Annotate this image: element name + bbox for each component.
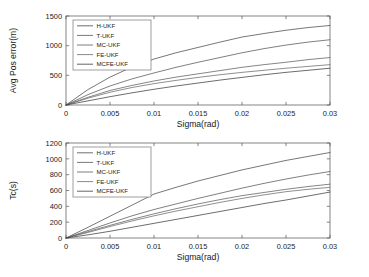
x-tick-label: 0.015 [189,109,208,118]
x-tick-label: 0 [64,109,68,118]
x-tick-label: 0.02 [235,109,249,118]
chart-panel-bottom: 00.0050.010.0150.020.0250.03020040060080… [0,137,369,277]
legend-label-h-ukf: H-UKF [97,149,116,156]
y-tick-label: 1000 [46,41,62,50]
x-tick-label: 0.01 [147,242,161,251]
x-tick-label: 0.03 [323,242,337,251]
y-tick-label: 1200 [46,139,62,148]
y-tick-label: 400 [50,202,62,211]
legend-label-fe-ukf: FE-UKF [97,51,119,58]
legend-label-t-ukf: T-UKF [97,32,115,39]
y-tick-label: 600 [50,186,62,195]
y-tick-label: 1000 [46,155,62,164]
series-line-fe-ukf [66,65,330,105]
bottom-chart-svg: 00.0050.010.0150.020.0250.03020040060080… [0,137,369,277]
y-tick-label: 200 [50,218,62,227]
y-tick-label: 0 [58,234,62,243]
legend-label-mc-ukf: MC-UKF [97,168,121,175]
y-tick-label: 1500 [46,12,62,21]
x-tick-label: 0.025 [277,242,296,251]
y-tick-label: 500 [50,71,62,80]
x-tick-label: 0.015 [189,242,208,251]
x-axis-title: Sigma(rad) [177,119,220,129]
x-tick-label: 0.02 [235,242,249,251]
y-axis-title: Tc(s) [8,181,18,200]
y-axis-title: Avg Pos error(m) [8,28,18,93]
y-tick-label: 800 [50,170,62,179]
x-tick-label: 0.005 [101,109,120,118]
x-tick-label: 0.03 [323,109,337,118]
x-tick-label: 0.01 [147,109,161,118]
legend-label-t-ukf: T-UKF [97,159,115,166]
x-axis-title: Sigma(rad) [177,252,220,262]
legend-label-mcfe-ukf: MCFE-UKF [97,60,129,67]
legend-label-mc-ukf: MC-UKF [97,41,121,48]
legend-label-fe-ukf: FE-UKF [97,178,119,185]
x-tick-label: 0 [64,242,68,251]
series-line-mcfe-ukf [66,192,330,238]
legend-label-h-ukf: H-UKF [97,22,116,29]
top-chart-svg: 00.0050.010.0150.020.0250.03050010001500… [0,0,369,140]
x-tick-label: 0.025 [277,109,296,118]
legend-label-mcfe-ukf: MCFE-UKF [97,187,129,194]
y-tick-label: 0 [58,101,62,110]
x-tick-label: 0.005 [101,242,120,251]
chart-panel-top: 00.0050.010.0150.020.0250.03050010001500… [0,0,369,140]
figure-container: 00.0050.010.0150.020.0250.03050010001500… [0,0,369,277]
